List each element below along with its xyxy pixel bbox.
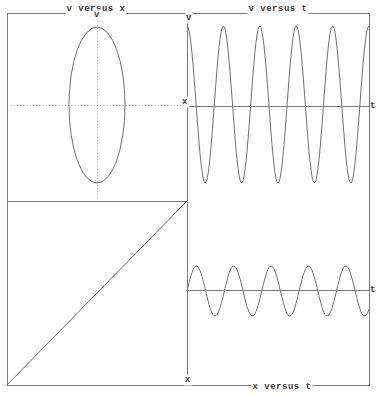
axis-label-t-position-plot: t bbox=[370, 286, 376, 295]
axis-label-v-time-plot: v bbox=[185, 13, 193, 24]
panel-title-x-versus-t: x versus t bbox=[251, 382, 312, 393]
panel-title-v-versus-t: v versus t bbox=[247, 4, 308, 15]
axis-label-t-velocity-plot: t bbox=[370, 102, 376, 111]
axis-label-v-phase-plot: v bbox=[93, 10, 101, 21]
axis-label-x-position-plot: x bbox=[184, 375, 192, 386]
plot-canvas bbox=[0, 0, 378, 397]
axis-label-x-phase-plot: x bbox=[181, 97, 189, 108]
shm-figure: v versus x v versus t x versus t v x v t… bbox=[0, 0, 378, 397]
